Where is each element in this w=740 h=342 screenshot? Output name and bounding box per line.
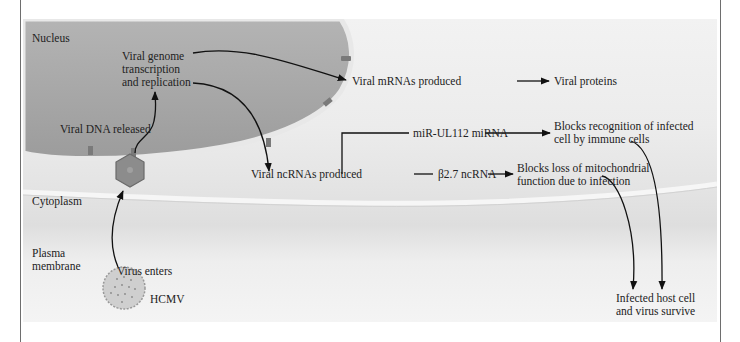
nucleus-label: Nucleus: [32, 32, 70, 45]
viral-dna-released-label: Viral DNA released: [60, 123, 151, 136]
virus-enters-label: Virus enters: [117, 265, 172, 278]
frame-left-border: [20, 0, 21, 342]
b27-ncrna-label: β2.7 ncRNA: [438, 168, 496, 181]
plasma-membrane-label-1: Plasma: [32, 247, 65, 260]
hcmv-label: HCMV: [150, 293, 185, 306]
viral-mrnas-label: Viral mRNAs produced: [352, 75, 461, 88]
illustration-panel: Nucleus Cytoplasm Plasma membrane Viral …: [23, 19, 717, 322]
genome-label-1: Viral genome: [122, 50, 184, 63]
capsid-icon: [116, 154, 144, 187]
blocks-recognition-label-2: cell by immune cells: [554, 133, 650, 146]
viral-ncrnas-label: Viral ncRNAs produced: [251, 168, 362, 181]
blocks-recognition-label-1: Blocks recognition of infected: [554, 120, 694, 133]
frame-right-border: [720, 0, 721, 342]
genome-label-3: and replication: [122, 76, 191, 89]
survive-label-2: and virus survive: [616, 305, 695, 318]
blocks-mito-label-2: function due to infection: [517, 175, 630, 188]
viral-proteins-label: Viral proteins: [554, 75, 617, 88]
blocks-mito-label-1: Blocks loss of mitochondrial: [517, 162, 650, 175]
survive-label-1: Infected host cell: [616, 292, 695, 305]
cytoplasm-label: Cytoplasm: [32, 195, 82, 208]
genome-label-2: transcription: [122, 63, 180, 76]
mirna-label: miR-UL112 miRNA: [413, 127, 508, 140]
plasma-membrane-label-2: membrane: [32, 260, 81, 273]
